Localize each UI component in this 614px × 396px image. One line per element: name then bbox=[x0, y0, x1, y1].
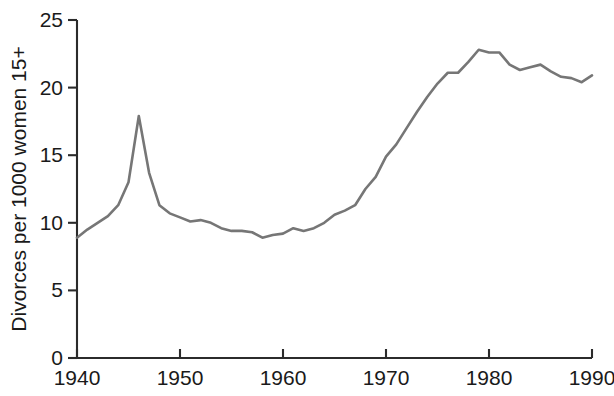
y-tick-label: 10 bbox=[40, 211, 63, 234]
y-tick-label: 20 bbox=[40, 76, 63, 99]
y-axis-ticks: 0510152025 bbox=[40, 8, 77, 369]
y-tick-label: 15 bbox=[40, 143, 63, 166]
x-tick-label: 1950 bbox=[157, 366, 204, 389]
chart-container: 0510152025 194019501960197019801990 Divo… bbox=[0, 0, 614, 396]
x-tick-label: 1970 bbox=[363, 366, 410, 389]
y-axis-title: Divorces per 1000 women 15+ bbox=[7, 46, 30, 331]
y-tick-label: 5 bbox=[51, 278, 63, 301]
y-tick-label: 25 bbox=[40, 8, 63, 31]
x-tick-label: 1990 bbox=[569, 366, 614, 389]
x-tick-label: 1980 bbox=[466, 366, 513, 389]
x-tick-label: 1940 bbox=[54, 366, 101, 389]
line-chart: 0510152025 194019501960197019801990 Divo… bbox=[0, 0, 614, 396]
x-tick-label: 1960 bbox=[260, 366, 307, 389]
x-axis-ticks: 194019501960197019801990 bbox=[54, 349, 614, 389]
data-series-line bbox=[77, 50, 592, 238]
